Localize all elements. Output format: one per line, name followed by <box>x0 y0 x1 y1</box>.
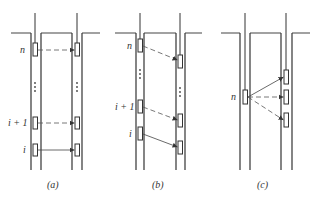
correlation-arrow-i <box>143 134 178 147</box>
left-well <box>240 13 250 170</box>
right-well <box>72 13 82 170</box>
correlation-arrow-i+1 <box>143 107 178 120</box>
correlation-arrow-upper <box>248 77 284 97</box>
right-well <box>176 13 185 170</box>
label-i-plus-1: i + 1 <box>115 101 135 112</box>
ellipsis-icon <box>34 82 36 92</box>
layer-i+1-right <box>75 117 80 129</box>
layer-n-right <box>178 55 183 68</box>
caption-c: (c) <box>257 179 269 191</box>
layer-n-left <box>33 43 38 56</box>
layer-i-right <box>75 144 80 156</box>
layer-i+1-left <box>138 100 143 113</box>
candidate-layer-lower <box>284 113 289 127</box>
left-well <box>31 13 41 170</box>
label-n: n <box>127 40 132 51</box>
label-i-plus-1: i + 1 <box>8 117 28 128</box>
layer-i+1-right <box>178 114 183 127</box>
caption-b: (b) <box>152 179 164 191</box>
right-well <box>281 13 292 170</box>
candidate-layer-middle <box>284 90 289 104</box>
layer-n-left <box>243 90 248 104</box>
candidate-layer-upper <box>284 70 289 84</box>
layer-n-right <box>75 43 80 56</box>
label-i: i <box>23 144 26 155</box>
panel-b: n i + 1 i (b) <box>115 13 202 191</box>
layer-i-left <box>138 127 143 140</box>
label-n: n <box>20 44 25 55</box>
layer-i-right <box>178 141 183 154</box>
left-well <box>136 13 144 170</box>
label-i: i <box>129 128 132 139</box>
ellipsis-icon <box>139 69 141 79</box>
ellipsis-icon <box>76 82 78 92</box>
label-n: n <box>231 91 236 102</box>
correlation-arrow-n <box>143 46 178 60</box>
correlation-arrow-lower <box>248 97 284 120</box>
ellipsis-icon <box>179 87 181 97</box>
caption-a: (a) <box>47 179 59 191</box>
panel-c: n (c) <box>221 13 310 191</box>
layer-i-left <box>33 144 38 156</box>
well-correlation-diagram: n i + 1 i (a) <box>0 0 315 199</box>
layer-i+1-left <box>33 117 38 129</box>
panel-a: n i + 1 i (a) <box>8 13 100 191</box>
layer-n-left <box>138 39 143 52</box>
